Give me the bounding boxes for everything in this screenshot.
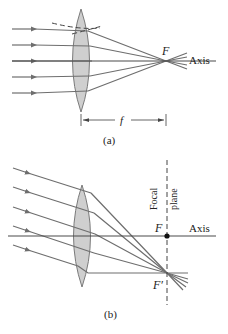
svg-text:plane: plane xyxy=(168,188,179,210)
focal-plane-label: Focal plane xyxy=(148,188,179,210)
panel-b: Focal plane F Axis F′ (b) xyxy=(8,160,216,321)
svg-text:Focal: Focal xyxy=(148,188,159,210)
caption-b: (b) xyxy=(104,308,117,321)
panel-a: F Axis f (a) xyxy=(12,9,216,147)
focal-length-label: f xyxy=(120,114,125,126)
focal-point-label-a: F xyxy=(161,44,170,58)
axis-label-a: Axis xyxy=(189,54,210,66)
focal-point-dot-b xyxy=(164,233,169,238)
focal-point-label-b: F xyxy=(154,221,163,235)
caption-a: (a) xyxy=(103,134,116,147)
lens-diagram: F Axis f (a) xyxy=(0,0,228,334)
axis-label-b: Axis xyxy=(189,222,210,234)
off-axis-focal-label: F′ xyxy=(152,278,163,292)
focal-length-dimension: f xyxy=(81,114,166,126)
